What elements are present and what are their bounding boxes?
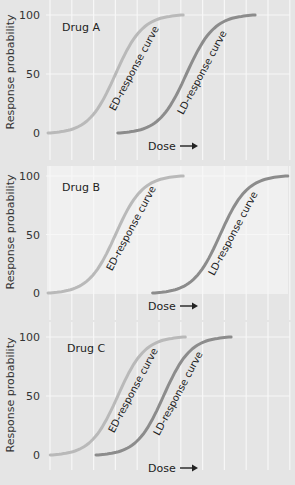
y-tick-label: 0 [33, 127, 40, 140]
y-tick-label: 0 [33, 449, 40, 462]
arrow-head-icon [192, 465, 198, 472]
y-axis-label: Response probability [4, 174, 17, 290]
panel-c: 100500Response probabilityDrug CED-respo… [4, 322, 290, 475]
y-axis-label: Response probability [4, 14, 17, 130]
y-tick-label: 50 [26, 68, 40, 81]
y-tick-label: 100 [19, 9, 40, 22]
panel-b: 100500Response probabilityDrug BED-respo… [4, 166, 290, 320]
y-tick-label: 100 [19, 331, 40, 344]
panel-title: Drug B [62, 181, 100, 194]
chart-canvas: 100500Response probabilityDrug AED-respo… [0, 0, 295, 485]
y-tick-label: 50 [26, 229, 40, 242]
x-axis-label: Dose [148, 140, 176, 153]
panel-title: Drug A [62, 21, 100, 34]
panel-title: Drug C [67, 342, 105, 355]
panel-a: 100500Response probabilityDrug AED-respo… [4, 0, 290, 160]
y-tick-label: 50 [26, 390, 40, 403]
y-axis-label: Response probability [4, 337, 17, 453]
arrow-head-icon [192, 143, 198, 150]
x-axis-label: Dose [148, 300, 176, 313]
y-tick-label: 0 [33, 287, 40, 300]
x-axis-label: Dose [148, 462, 176, 475]
y-tick-label: 100 [19, 170, 40, 183]
dose-response-figure: 100500Response probabilityDrug AED-respo… [0, 0, 295, 485]
arrow-head-icon [192, 303, 198, 310]
